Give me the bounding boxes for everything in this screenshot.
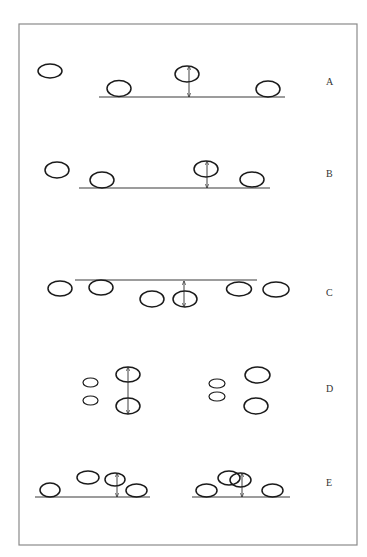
ellipse xyxy=(227,282,252,296)
ellipse xyxy=(140,291,164,307)
ellipse xyxy=(107,81,131,97)
ellipse xyxy=(77,471,99,484)
panel-label: E xyxy=(326,477,332,488)
ellipse xyxy=(263,282,289,297)
ellipse xyxy=(262,484,283,497)
panel-a: A xyxy=(38,64,334,97)
ellipse xyxy=(40,483,60,497)
panel-e: E xyxy=(35,471,332,497)
panel-label: C xyxy=(326,287,333,298)
panel-c: C xyxy=(48,280,333,307)
panels: ABCDE xyxy=(35,64,334,497)
panel-label: A xyxy=(326,76,334,87)
ellipse xyxy=(245,367,270,383)
ellipse xyxy=(256,81,280,97)
ellipse xyxy=(126,484,147,497)
ellipse xyxy=(244,398,268,414)
ellipse xyxy=(105,473,125,486)
ellipse xyxy=(196,484,217,497)
ellipse xyxy=(38,64,62,78)
ellipse xyxy=(230,473,251,487)
ellipse xyxy=(194,161,218,177)
ellipse xyxy=(45,162,69,178)
ellipse xyxy=(48,281,72,296)
ellipse xyxy=(240,172,264,187)
ellipse xyxy=(89,280,113,295)
panel-label: B xyxy=(326,168,333,179)
ellipse xyxy=(90,172,114,188)
ellipse xyxy=(83,378,98,387)
panel-b: B xyxy=(45,161,333,188)
ellipse xyxy=(209,392,225,401)
panel-d: D xyxy=(83,367,333,414)
diagram-canvas: ABCDE xyxy=(0,0,367,557)
ellipse xyxy=(175,66,199,82)
ellipse xyxy=(173,291,197,307)
panel-label: D xyxy=(326,383,333,394)
ellipse xyxy=(83,396,98,405)
ellipse xyxy=(209,379,225,388)
